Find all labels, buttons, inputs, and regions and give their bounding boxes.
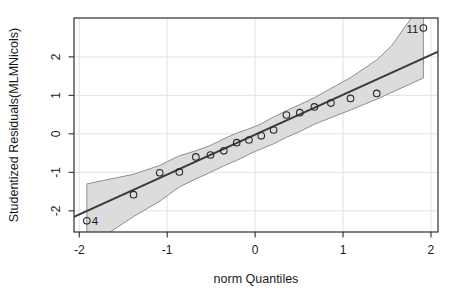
x-tick-label: 0 — [252, 243, 259, 257]
x-tick-label: -1 — [162, 243, 173, 257]
point-label: 4 — [92, 215, 99, 227]
x-tick-label: 2 — [428, 243, 435, 257]
y-tick-label: -1 — [49, 167, 63, 178]
x-tick-label: 1 — [340, 243, 347, 257]
x-axis-title: norm Quantiles — [74, 272, 438, 286]
x-tick-label: -2 — [74, 243, 85, 257]
qq-plot-figure: 411-2-1012-2-1012 norm Quantiles Student… — [0, 0, 457, 301]
y-tick-label: 0 — [49, 130, 63, 137]
y-tick-label: -2 — [49, 205, 63, 216]
qq-plot-canvas: 411-2-1012-2-1012 — [0, 0, 457, 301]
point-label: 11 — [406, 23, 418, 35]
y-tick-label: 2 — [49, 53, 63, 60]
y-tick-label: 1 — [49, 92, 63, 99]
y-axis-title: Studentized Residuals(MLMNicols) — [7, 28, 21, 223]
